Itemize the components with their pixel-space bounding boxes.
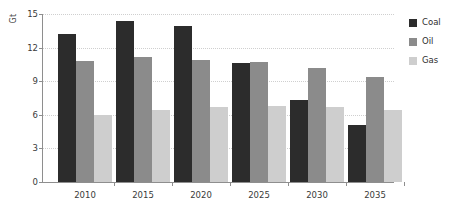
- bar-chart: Gt 03691215 201020152020202520302035 Coa…: [0, 0, 454, 221]
- y-tick-mark: [39, 148, 42, 149]
- bar-gas-2015[interactable]: [152, 110, 170, 182]
- bar-coal-2030[interactable]: [290, 100, 308, 182]
- bar-oil-2035[interactable]: [366, 77, 384, 182]
- y-axis-line: [42, 14, 43, 183]
- x-tick-mark: [404, 182, 405, 186]
- y-tick-mark: [39, 14, 42, 15]
- bar-gas-2035[interactable]: [384, 110, 402, 182]
- bar-oil-2010[interactable]: [76, 61, 94, 182]
- x-tick-label-2015: 2015: [113, 190, 173, 200]
- bar-group: [348, 14, 402, 182]
- chart-legend: CoalOilGas: [409, 13, 441, 70]
- x-tick-label-2035: 2035: [345, 190, 405, 200]
- x-tick-label-2010: 2010: [55, 190, 115, 200]
- bar-coal-2025[interactable]: [232, 63, 250, 182]
- x-tick-label-2020: 2020: [171, 190, 231, 200]
- bar-gas-2010[interactable]: [94, 115, 112, 182]
- x-tick-mark: [288, 182, 289, 186]
- bar-coal-2035[interactable]: [348, 125, 366, 182]
- y-tick-label: 3: [22, 144, 38, 153]
- bar-gas-2025[interactable]: [268, 106, 286, 182]
- x-tick-mark: [114, 182, 115, 186]
- y-tick-mark: [39, 48, 42, 49]
- x-tick-mark: [230, 182, 231, 186]
- legend-swatch-gas-icon: [409, 57, 417, 65]
- bar-oil-2020[interactable]: [192, 60, 210, 182]
- bar-group: [174, 14, 228, 182]
- y-tick-label: 15: [22, 10, 38, 19]
- bar-oil-2030[interactable]: [308, 68, 326, 182]
- legend-swatch-oil-icon: [409, 38, 417, 46]
- bar-group: [58, 14, 112, 182]
- x-tick-mark: [346, 182, 347, 186]
- x-tick-label-2030: 2030: [287, 190, 347, 200]
- legend-item-coal[interactable]: Coal: [409, 13, 441, 32]
- y-tick-mark: [39, 115, 42, 116]
- x-axis-line: [42, 182, 394, 183]
- bar-group: [116, 14, 170, 182]
- legend-label: Gas: [422, 56, 438, 65]
- y-tick-label: 6: [22, 111, 38, 120]
- legend-label: Oil: [422, 37, 433, 46]
- y-tick-label: 12: [22, 44, 38, 53]
- plot-area: 03691215 201020152020202520302035: [42, 14, 394, 182]
- legend-label: Coal: [422, 18, 441, 27]
- bar-gas-2020[interactable]: [210, 107, 228, 182]
- x-tick-mark: [172, 182, 173, 186]
- legend-item-oil[interactable]: Oil: [409, 32, 441, 51]
- legend-item-gas[interactable]: Gas: [409, 51, 441, 70]
- bar-coal-2010[interactable]: [58, 34, 76, 182]
- y-tick-mark: [39, 81, 42, 82]
- bar-oil-2015[interactable]: [134, 57, 152, 182]
- bar-group: [232, 14, 286, 182]
- bar-oil-2025[interactable]: [250, 62, 268, 182]
- legend-swatch-coal-icon: [409, 19, 417, 27]
- y-tick-label: 9: [22, 77, 38, 86]
- bar-group: [290, 14, 344, 182]
- bar-coal-2020[interactable]: [174, 26, 192, 182]
- y-tick-mark: [39, 182, 42, 183]
- y-axis-label: Gt: [9, 2, 18, 36]
- bar-coal-2015[interactable]: [116, 21, 134, 182]
- y-tick-label: 0: [22, 178, 38, 187]
- x-tick-label-2025: 2025: [229, 190, 289, 200]
- bar-gas-2030[interactable]: [326, 107, 344, 182]
